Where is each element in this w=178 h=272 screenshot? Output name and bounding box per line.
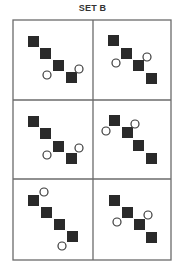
circle-icon	[112, 59, 120, 67]
circle-icon	[144, 211, 152, 219]
pattern-cell-2	[108, 35, 157, 84]
square-icon	[66, 72, 77, 83]
circle-icon	[75, 65, 83, 73]
square-icon	[28, 116, 39, 127]
square-icon	[146, 73, 157, 84]
circle-icon	[113, 218, 121, 226]
circle-icon	[131, 120, 139, 128]
square-icon	[66, 153, 77, 164]
square-icon	[28, 36, 39, 47]
pattern-cell-1	[28, 36, 83, 83]
square-icon	[109, 195, 120, 206]
square-icon	[122, 127, 133, 138]
square-icon	[133, 60, 144, 71]
circle-icon	[102, 127, 110, 135]
circle-icon	[43, 151, 51, 159]
square-icon	[122, 207, 133, 218]
square-icon	[40, 48, 51, 59]
square-icon	[54, 219, 65, 230]
square-icon	[121, 48, 132, 59]
square-icon	[146, 153, 157, 164]
square-icon	[134, 219, 145, 230]
figure-grid	[0, 0, 178, 272]
pattern-cell-4	[102, 115, 157, 164]
square-icon	[109, 115, 120, 126]
pattern-cell-5	[28, 188, 78, 250]
square-icon	[41, 207, 52, 218]
pattern-cell-6	[109, 195, 157, 243]
pattern-cell-3	[28, 116, 83, 164]
circle-icon	[143, 53, 151, 61]
square-icon	[133, 140, 144, 151]
square-icon	[40, 128, 51, 139]
square-icon	[108, 35, 119, 46]
square-icon	[53, 141, 64, 152]
circle-icon	[43, 71, 51, 79]
circle-icon	[75, 144, 83, 152]
square-icon	[67, 231, 78, 242]
square-icon	[28, 195, 39, 206]
circle-icon	[58, 242, 66, 250]
square-icon	[146, 232, 157, 243]
square-icon	[53, 60, 64, 71]
circle-icon	[40, 188, 48, 196]
